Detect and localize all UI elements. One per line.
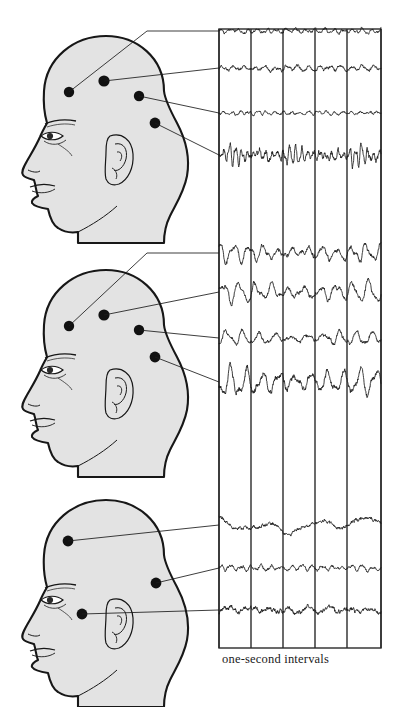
eeg-trace-panel-middle-t2 (219, 278, 381, 306)
panel-bottom (22, 500, 381, 707)
eeg-trace-panel-top-t1 (219, 27, 381, 35)
eeg-trace-panel-bottom-t3 (219, 604, 381, 615)
head-top (22, 36, 188, 243)
panel-middle (22, 243, 381, 477)
panel-top (22, 27, 381, 243)
eeg-figure (0, 0, 411, 707)
eye-pupil (47, 367, 53, 373)
eeg-trace-panel-bottom-t2 (219, 564, 381, 573)
eye-pupil (47, 597, 53, 603)
eeg-trace-panel-middle-t1 (219, 243, 381, 265)
head-middle (22, 270, 188, 477)
figure-canvas (0, 0, 411, 707)
grid-frame (219, 29, 381, 648)
eye-pupil (47, 133, 53, 139)
interval-caption: one-second intervals (222, 652, 329, 667)
eeg-grid (219, 29, 381, 648)
eeg-trace-panel-middle-t4 (219, 362, 381, 397)
eeg-trace-panel-top-t2 (219, 64, 381, 72)
eeg-trace-panel-bottom-t1 (219, 516, 381, 536)
eeg-trace-panel-middle-t3 (219, 329, 381, 346)
eeg-trace-panel-top-t3 (219, 110, 381, 116)
eeg-trace-panel-top-t4 (219, 143, 381, 169)
